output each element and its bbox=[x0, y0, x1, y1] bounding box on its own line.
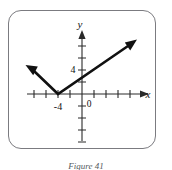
figure-caption: Figure 41 bbox=[0, 161, 172, 170]
origin-label: 0 bbox=[87, 99, 92, 109]
y-axis-label: y bbox=[77, 18, 83, 30]
absolute-value-curve bbox=[26, 40, 138, 95]
x-axis bbox=[27, 90, 149, 97]
coordinate-plane-graph: y x 0 -4 4 bbox=[9, 11, 155, 148]
x-tick-label-minus-4: -4 bbox=[54, 101, 62, 112]
y-tick-label-4: 4 bbox=[71, 64, 76, 75]
y-axis bbox=[78, 30, 85, 141]
x-axis-label: x bbox=[145, 88, 151, 100]
graph-frame-border: y x 0 -4 4 bbox=[8, 10, 156, 149]
figure-root: y x 0 -4 4 Figure 41 bbox=[0, 0, 172, 170]
